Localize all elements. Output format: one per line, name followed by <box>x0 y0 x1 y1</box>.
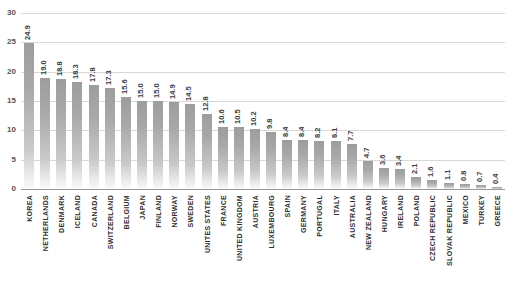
bar-group[interactable]: 12.8 <box>202 13 212 189</box>
bar[interactable] <box>314 141 324 189</box>
bar-group[interactable]: 8.1 <box>331 13 341 189</box>
x-axis-label-slot: KOREA <box>21 192 37 293</box>
bar-group[interactable]: 15.0 <box>137 13 147 189</box>
bar[interactable] <box>492 187 502 189</box>
x-axis-label-slot: UNITED KINGDOM <box>231 192 247 293</box>
x-axis-category-label: ITALY <box>332 195 339 216</box>
bar[interactable] <box>266 132 276 189</box>
bar-group[interactable]: 15.6 <box>121 13 131 189</box>
y-axis-tick-label: 10 <box>7 126 16 134</box>
x-axis-label-slot: GERMANY <box>295 192 311 293</box>
bar[interactable] <box>185 104 195 189</box>
bar[interactable] <box>298 140 308 189</box>
bar[interactable] <box>153 101 163 189</box>
x-axis-label-slot: LUXEMBOURG <box>263 192 279 293</box>
x-axis-label-slot: NETHERLANDS <box>37 192 53 293</box>
bar-group[interactable]: 15.0 <box>153 13 163 189</box>
bar-group[interactable]: 0.7 <box>476 13 486 189</box>
bar-group[interactable]: 17.8 <box>89 13 99 189</box>
bar[interactable] <box>56 79 66 189</box>
gridline <box>21 189 505 190</box>
bar[interactable] <box>476 185 486 189</box>
bar-value-label: 8.4 <box>282 126 290 136</box>
bar-group[interactable]: 0.4 <box>492 13 502 189</box>
bar-group[interactable]: 14.5 <box>185 13 195 189</box>
bar-group[interactable]: 8.2 <box>314 13 324 189</box>
bar[interactable] <box>234 127 244 189</box>
x-axis-category-label: GERMANY <box>300 195 307 233</box>
bar-group[interactable]: 0.8 <box>460 13 470 189</box>
bar[interactable] <box>363 161 373 189</box>
bar[interactable] <box>137 101 147 189</box>
x-axis-label-slot: ITALY <box>328 192 344 293</box>
x-axis-label-slot: AUSTRALIA <box>344 192 360 293</box>
bar-group[interactable]: 10.2 <box>250 13 260 189</box>
bar[interactable] <box>89 85 99 189</box>
x-axis-category-label: SLOVAK REPUBLIC <box>445 195 452 266</box>
bar[interactable] <box>250 129 260 189</box>
bar[interactable] <box>379 168 389 189</box>
bar[interactable] <box>121 97 131 189</box>
bar[interactable] <box>105 88 115 189</box>
y-axis-tick-label: 15 <box>7 97 16 105</box>
bar[interactable] <box>72 82 82 189</box>
bar-group[interactable]: 10.6 <box>218 13 228 189</box>
bar[interactable] <box>444 183 454 189</box>
x-axis-category-label: POLAND <box>413 195 420 226</box>
bar[interactable] <box>202 114 212 189</box>
bar-value-label: 12.8 <box>202 96 210 111</box>
bar-value-label: 10.5 <box>234 110 242 125</box>
bar[interactable] <box>24 43 34 189</box>
bar-group[interactable]: 3.4 <box>395 13 405 189</box>
bar[interactable] <box>331 141 341 189</box>
x-axis-category-label: UNITES STATES <box>203 195 210 253</box>
x-axis-label-slot: SLOVAK REPUBLIC <box>440 192 456 293</box>
bar-group[interactable]: 19.0 <box>40 13 50 189</box>
bar-value-label: 1.1 <box>444 169 452 179</box>
bar-value-label: 24.9 <box>24 25 32 40</box>
bar[interactable] <box>169 102 179 189</box>
x-axis-category-label: SPAIN <box>284 195 291 217</box>
bar[interactable] <box>460 184 470 189</box>
bar-group[interactable]: 10.5 <box>234 13 244 189</box>
bar-group[interactable]: 18.3 <box>72 13 82 189</box>
bar-group[interactable]: 7.7 <box>347 13 357 189</box>
bar[interactable] <box>427 180 437 189</box>
bar-value-label: 15.0 <box>153 83 161 98</box>
x-axis-label-slot: HUNGARY <box>376 192 392 293</box>
bar-value-label: 3.4 <box>395 156 403 166</box>
bar[interactable] <box>395 169 405 189</box>
bar-group[interactable]: 14.9 <box>169 13 179 189</box>
x-axis-label-slot: JAPAN <box>134 192 150 293</box>
bar-group[interactable]: 8.4 <box>282 13 292 189</box>
bar-group[interactable]: 2.1 <box>411 13 421 189</box>
bar-group[interactable]: 1.6 <box>427 13 437 189</box>
bar-value-label: 14.9 <box>169 84 177 99</box>
x-axis-category-label: JAPAN <box>138 195 145 220</box>
bar[interactable] <box>411 177 421 189</box>
x-axis-label-slot: BELGIUM <box>118 192 134 293</box>
bar-value-label: 0.8 <box>460 171 468 181</box>
x-axis-category-label: SWITZERLAND <box>106 195 113 249</box>
bar-group[interactable]: 4.7 <box>363 13 373 189</box>
bar-group[interactable]: 1.1 <box>444 13 454 189</box>
x-axis-category-label: CZECH REPUBLIC <box>429 195 436 261</box>
bar[interactable] <box>40 78 50 189</box>
bar-group[interactable]: 8.4 <box>298 13 308 189</box>
y-axis-tick-label: 5 <box>12 156 16 164</box>
bar[interactable] <box>282 140 292 189</box>
bar-group[interactable]: 24.9 <box>24 13 34 189</box>
x-axis-label-slot: AUSTRIA <box>247 192 263 293</box>
y-axis-tick-label: 25 <box>7 38 16 46</box>
bar[interactable] <box>218 127 228 189</box>
bar-group[interactable]: 18.8 <box>56 13 66 189</box>
x-axis-category-label: MEXICO <box>461 195 468 224</box>
bar-group[interactable]: 3.6 <box>379 13 389 189</box>
bar-group[interactable]: 9.8 <box>266 13 276 189</box>
x-axis-category-label: HUNGARY <box>380 195 387 232</box>
x-axis-label-slot: IRELAND <box>392 192 408 293</box>
x-axis-label-slot: FRANCE <box>215 192 231 293</box>
bar[interactable] <box>347 144 357 189</box>
bar-group[interactable]: 17.3 <box>105 13 115 189</box>
bar-value-label: 17.3 <box>105 70 113 85</box>
